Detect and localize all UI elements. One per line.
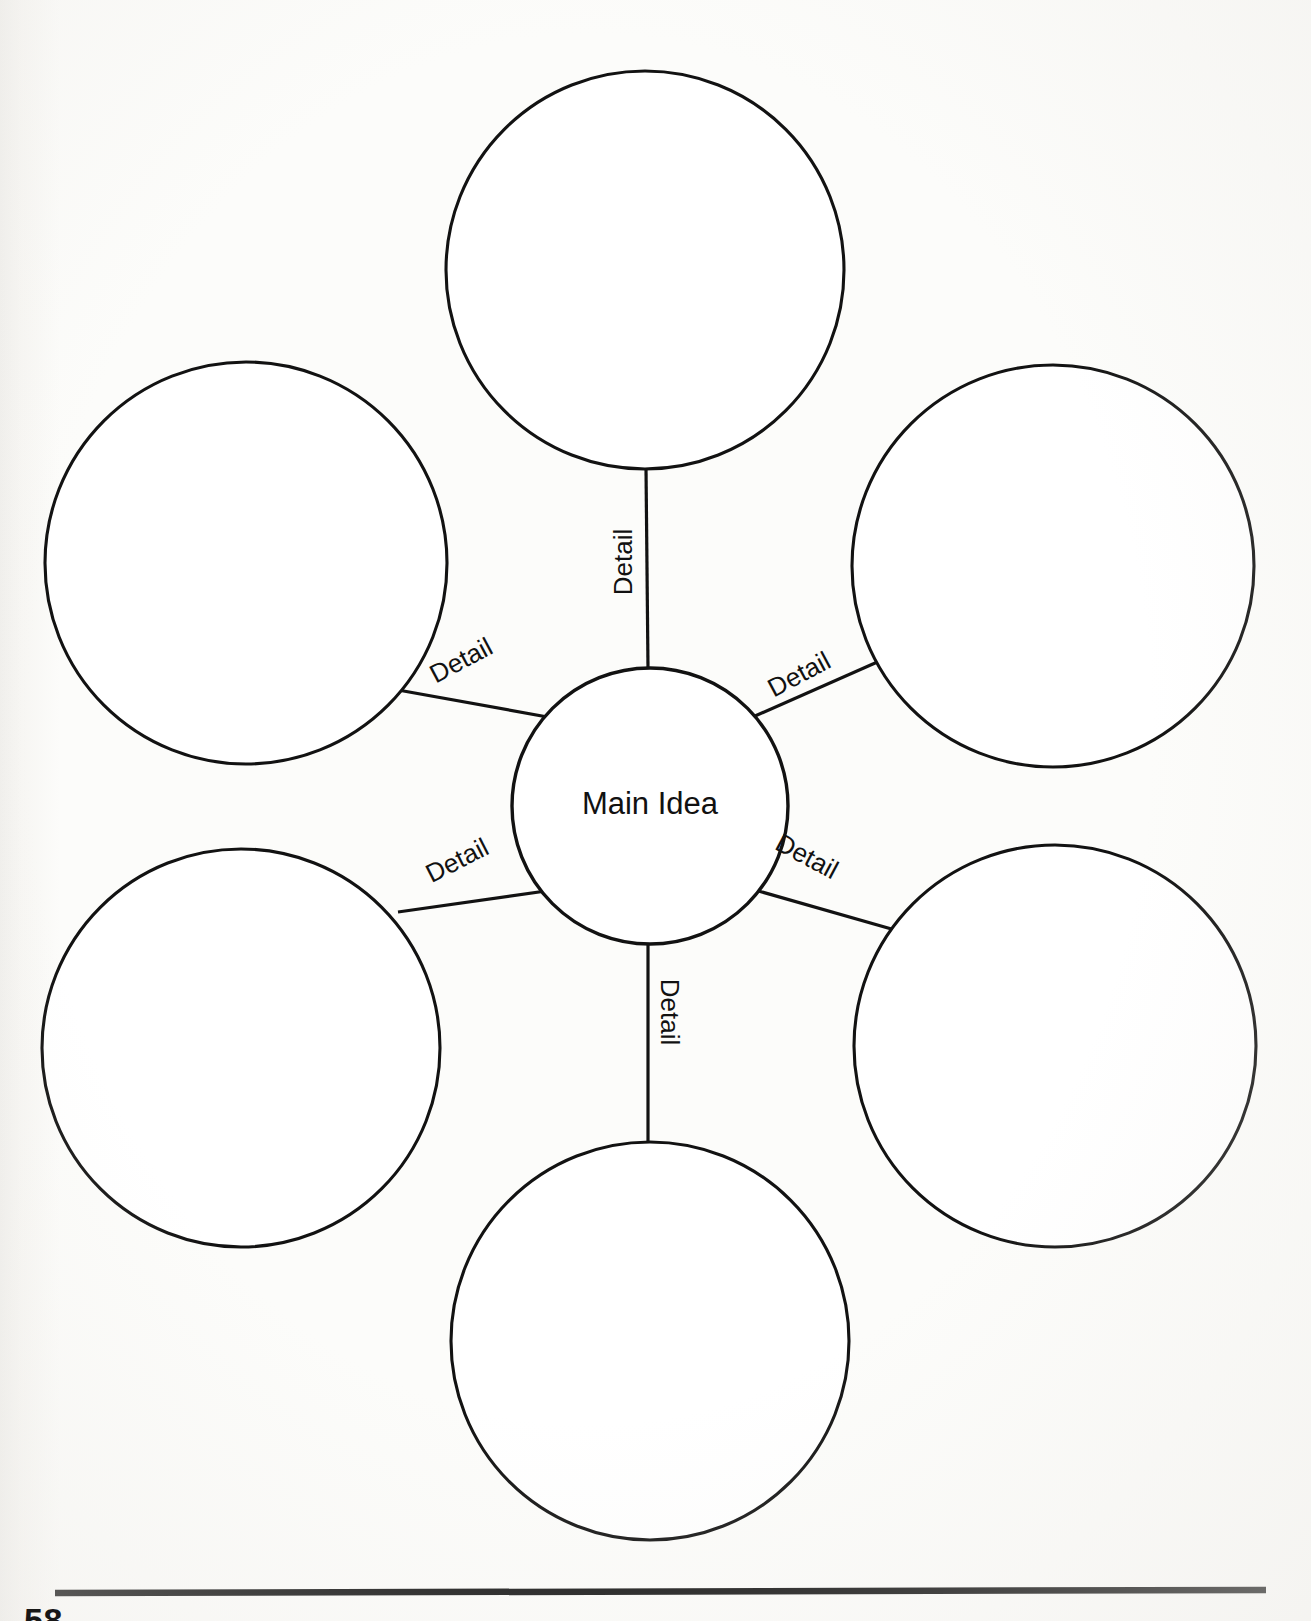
spoke-label-lower-left: Detail (421, 832, 494, 889)
detail-circle-lower-left[interactable] (42, 849, 440, 1247)
spoke-label-upper-left: Detail (425, 631, 498, 689)
worksheet-page: Main Idea Detail Detail Detail Detail De… (0, 0, 1311, 1621)
connector-lower-right (748, 888, 902, 932)
spoke-label-top: Detail (608, 529, 638, 595)
spoke-label-bottom: Detail (655, 979, 685, 1045)
detail-circle-upper-left[interactable] (45, 362, 447, 764)
connector-upper-left (398, 690, 553, 718)
detail-circle-upper-right[interactable] (852, 365, 1254, 767)
web-graphic-organizer: Main Idea Detail Detail Detail Detail De… (0, 0, 1311, 1621)
main-idea-label: Main Idea (582, 786, 719, 821)
connector-lower-left (398, 890, 553, 912)
connector-top (646, 468, 648, 668)
main-idea-node[interactable]: Main Idea (512, 668, 788, 944)
detail-circle-top[interactable] (446, 71, 844, 469)
detail-circle-lower-right[interactable] (854, 845, 1256, 1247)
spoke-label-upper-right: Detail (763, 645, 836, 703)
detail-circle-bottom[interactable] (451, 1142, 849, 1540)
spoke-label-lower-right: Detail (771, 827, 844, 885)
footer-rule (55, 1590, 1266, 1593)
page-number: 58 (24, 1603, 63, 1621)
